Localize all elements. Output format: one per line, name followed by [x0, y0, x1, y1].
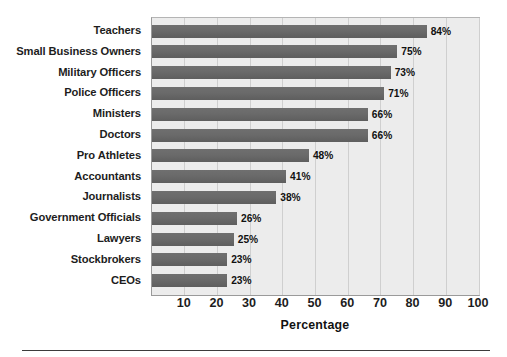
category-label: Pro Athletes [77, 148, 141, 162]
bar-value-label: 66% [372, 129, 392, 142]
bar [152, 87, 384, 100]
bar-value-label: 84% [431, 25, 451, 38]
bar-chart-figure: TeachersSmall Business OwnersMilitary Of… [0, 0, 507, 357]
bar-value-label: 26% [241, 212, 261, 225]
gridline-70 [380, 18, 381, 295]
bar [152, 233, 234, 246]
bar-value-label: 38% [280, 191, 300, 204]
bar [152, 45, 397, 58]
bar-value-label: 23% [231, 274, 251, 287]
x-tick-label: 90 [428, 296, 462, 310]
x-tick-label: 40 [265, 296, 299, 310]
bar [152, 253, 227, 266]
bar [152, 191, 276, 204]
gridline-60 [348, 18, 349, 295]
category-label: Doctors [99, 127, 141, 141]
plot-area: 84%75%73%71%66%66%48%41%38%26%25%23%23% [151, 17, 480, 296]
bar-value-label: 73% [395, 66, 415, 79]
gridline-90 [446, 18, 447, 295]
x-tick-label: 80 [396, 296, 430, 310]
bar [152, 25, 427, 38]
category-axis: TeachersSmall Business OwnersMilitary Of… [0, 17, 146, 294]
x-tick-label: 20 [199, 296, 233, 310]
bar [152, 108, 368, 121]
category-label: Police Officers [64, 85, 141, 99]
x-tick-label: 10 [167, 296, 201, 310]
category-label: CEOs [111, 273, 141, 287]
x-tick-label: 70 [363, 296, 397, 310]
category-label: Ministers [93, 106, 141, 120]
bar [152, 149, 309, 162]
bar [152, 274, 227, 287]
category-label: Teachers [94, 23, 142, 37]
bar-value-label: 48% [313, 149, 333, 162]
category-label: Stockbrokers [71, 252, 141, 266]
bar [152, 129, 368, 142]
bar [152, 212, 237, 225]
x-tick-label: 50 [298, 296, 332, 310]
bar [152, 170, 286, 183]
bar-value-label: 25% [238, 233, 258, 246]
category-label: Military Officers [58, 65, 141, 79]
x-axis-tick-labels: 102030405060708090100 [151, 296, 479, 314]
category-label: Journalists [82, 189, 141, 203]
bar-value-label: 41% [290, 170, 310, 183]
category-label: Small Business Owners [16, 44, 141, 58]
category-label: Accountants [74, 169, 141, 183]
bar-value-label: 75% [401, 45, 421, 58]
bar-value-label: 71% [388, 87, 408, 100]
plot-inner: 84%75%73%71%66%66%48%41%38%26%25%23%23% [152, 18, 479, 295]
x-tick-label: 30 [232, 296, 266, 310]
x-tick-label: 100 [461, 296, 495, 310]
bar-value-label: 23% [231, 253, 251, 266]
x-axis-title: Percentage [151, 318, 479, 332]
footer-divider [22, 350, 490, 351]
category-label: Government Officials [30, 210, 141, 224]
gridline-80 [413, 18, 414, 295]
x-tick-label: 60 [330, 296, 364, 310]
bar [152, 66, 391, 79]
gridline-100 [479, 18, 480, 295]
category-label: Lawyers [97, 231, 141, 245]
bar-value-label: 66% [372, 108, 392, 121]
